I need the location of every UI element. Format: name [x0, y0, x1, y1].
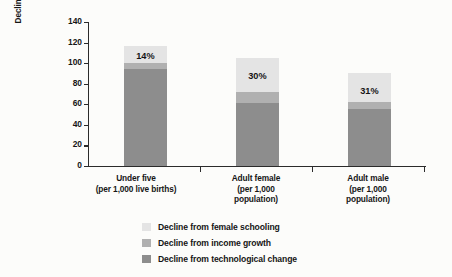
- y-tick-label: 60: [73, 98, 82, 108]
- bar-adult-male: 31%: [348, 21, 391, 166]
- bar-value-label: 31%: [348, 86, 391, 96]
- chart-legend: Decline from female schooling Decline fr…: [142, 219, 297, 267]
- y-tick-label: 100: [68, 57, 82, 67]
- plot-area: 140 120 100 80 60 40 20 0: [88, 22, 426, 167]
- bar-segment-technological-change: [236, 103, 279, 166]
- bar-segment-technological-change: [124, 69, 167, 166]
- x-tick-divider-2: [312, 167, 313, 172]
- x-axis-line: [88, 166, 426, 167]
- bar-segment-income-growth: [124, 63, 167, 69]
- y-tick-label: 20: [73, 139, 82, 149]
- bar-segment-technological-change: [348, 109, 391, 166]
- x-tick-divider-1: [200, 167, 201, 172]
- bar-value-label: 14%: [124, 51, 167, 61]
- legend-label: Decline from technological change: [158, 254, 297, 264]
- bar-adult-female: 30%: [236, 21, 279, 166]
- bar-segment-income-growth: [348, 102, 391, 109]
- legend-item-technological-change: Decline from technological change: [142, 251, 297, 267]
- y-tick-label: 40: [73, 119, 82, 129]
- category-label-adult-male: Adult male (per 1,000 population): [318, 173, 418, 205]
- legend-item-female-schooling: Decline from female schooling: [142, 219, 297, 235]
- legend-swatch-technological-change: [142, 255, 151, 263]
- bar-under-five: 14%: [124, 21, 167, 166]
- legend-item-income-growth: Decline from income growth: [142, 235, 297, 251]
- bar-segment-income-growth: [236, 92, 279, 103]
- x-tick-divider-3: [424, 167, 425, 172]
- bar-value-label: 30%: [236, 71, 279, 81]
- legend-label: Decline from female schooling: [158, 222, 280, 232]
- stacked-bar-chart: Decline in mortality rates 1970–2010 140…: [0, 0, 452, 277]
- category-label-adult-female: Adult female (per 1,000 population): [206, 173, 306, 205]
- y-tick-label: 0: [77, 160, 82, 170]
- legend-label: Decline from income growth: [158, 238, 271, 248]
- y-tick-label: 120: [68, 37, 82, 47]
- y-axis-title: Decline in mortality rates 1970–2010: [14, 0, 36, 46]
- legend-swatch-female-schooling: [142, 223, 151, 231]
- legend-swatch-income-growth: [142, 239, 151, 247]
- y-tick-label: 140: [68, 16, 82, 26]
- y-tick-label: 80: [73, 78, 82, 88]
- category-label-under-five: Under five (per 1,000 live births): [78, 173, 194, 194]
